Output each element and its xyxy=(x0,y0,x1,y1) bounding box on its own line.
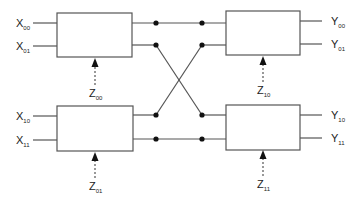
crossover xyxy=(156,45,226,115)
block-top-right xyxy=(226,11,322,82)
block-bottom-left xyxy=(33,106,226,178)
junction-dot xyxy=(199,112,204,117)
label-x01: X01 xyxy=(16,40,31,54)
switch-box-top-left xyxy=(57,13,132,57)
junction-dot xyxy=(199,136,204,141)
switch-box-bottom-right xyxy=(226,105,300,150)
junction-dot xyxy=(153,112,158,117)
switch-box-top-right xyxy=(226,11,300,55)
label-z10: Z10 xyxy=(257,84,271,98)
label-y11: Y11 xyxy=(331,132,345,146)
label-x10: X10 xyxy=(16,110,31,124)
label-z00: Z00 xyxy=(89,87,103,101)
label-y01: Y01 xyxy=(331,38,346,52)
junction-dot xyxy=(153,42,158,47)
junction-dot xyxy=(153,20,158,25)
label-x11: X11 xyxy=(16,134,30,148)
arrow-up-icon xyxy=(92,58,99,67)
label-z01: Z01 xyxy=(89,180,103,194)
arrow-up-icon xyxy=(92,152,99,161)
label-z11: Z11 xyxy=(257,178,271,192)
label-y10: Y10 xyxy=(331,109,346,123)
block-bottom-right xyxy=(226,105,322,176)
arrow-up-icon xyxy=(260,56,267,65)
junction-dot xyxy=(153,136,158,141)
arrow-up-icon xyxy=(260,150,267,159)
switch-box-bottom-left xyxy=(57,106,133,151)
butterfly-network-diagram: X00 X01 X10 X11 Y00 Y01 Y10 Y11 Z00 Z01 … xyxy=(0,0,358,207)
label-y00: Y00 xyxy=(331,15,346,29)
junction-dot xyxy=(199,42,204,47)
junction-dot xyxy=(199,20,204,25)
block-top-left xyxy=(33,13,226,85)
label-x00: X00 xyxy=(16,17,31,31)
